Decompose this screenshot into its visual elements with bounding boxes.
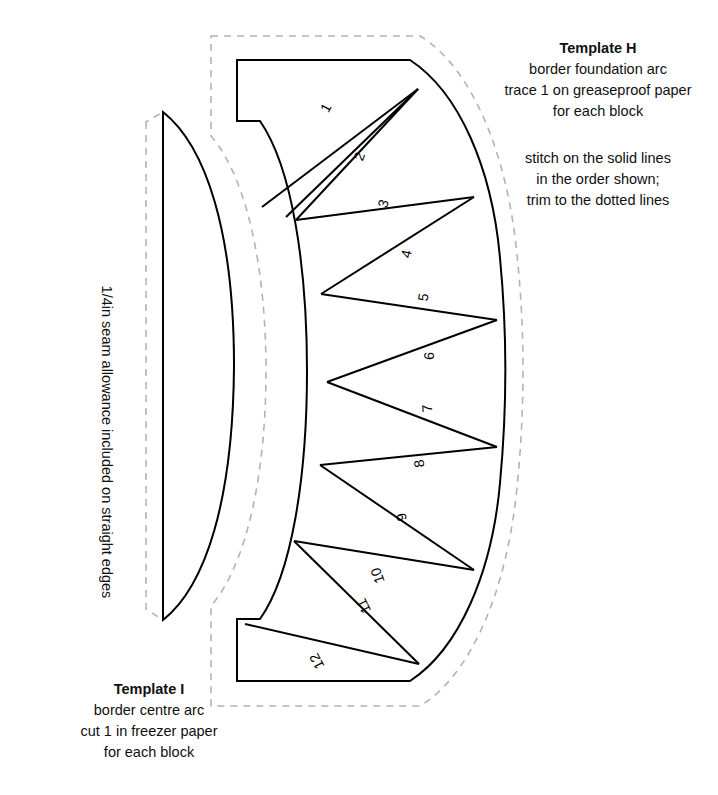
template-i-arc-shape [163,112,234,620]
stitch-instructions: stitch on the solid lines in the order s… [482,148,714,211]
stitch-line-2: in the order shown; [482,169,714,190]
template-h-caption: Template H border foundation arc trace 1… [482,38,714,122]
wedge-number: 7 [419,404,436,413]
template-i-line-1: border centre arc [18,700,280,721]
pattern-sheet: 1 2 3 4 5 6 7 8 9 10 11 12 Template H bo… [0,0,718,795]
template-i-line-2: cut 1 in freezer paper [18,721,280,742]
template-h-line-1: border foundation arc [482,59,714,80]
template-h-line-3: for each block [482,101,714,122]
template-h-line-2: trace 1 on greaseproof paper [482,80,714,101]
template-i-title: Template I [18,679,280,700]
stitch-line-1: stitch on the solid lines [482,148,714,169]
stitch-line-3: trim to the dotted lines [482,190,714,211]
template-i-line-3: for each block [18,742,280,763]
template-i-caption: Template I border centre arc cut 1 in fr… [18,679,280,763]
template-h-title: Template H [482,38,714,59]
template-h-arc-shape [237,60,505,681]
wedge-number: 6 [421,351,437,360]
seam-allowance-note: 1/4in seam allowance included on straigh… [99,252,115,632]
